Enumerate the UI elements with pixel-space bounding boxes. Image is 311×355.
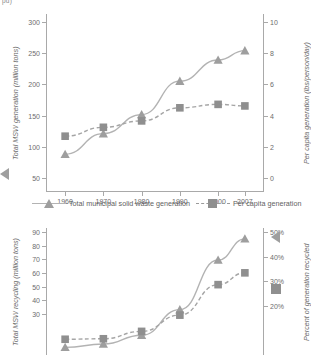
triangle-marker-icon bbox=[240, 234, 249, 242]
left-axis-tick bbox=[42, 116, 46, 117]
square-marker-icon bbox=[138, 117, 146, 125]
left-axis-tick bbox=[42, 314, 46, 315]
right-axis-tick bbox=[264, 257, 268, 258]
series-line-per-capita bbox=[65, 104, 245, 136]
right-axis-tick-label: 20% bbox=[270, 302, 284, 309]
left-axis-tick bbox=[42, 287, 46, 288]
left-axis-title: Total MSW recycling (million tons) bbox=[11, 238, 20, 346]
right-axis-tick bbox=[264, 232, 268, 233]
left-axis-tick bbox=[42, 273, 46, 274]
square-marker-icon bbox=[241, 102, 249, 110]
right-axis-tick bbox=[264, 53, 268, 54]
right-axis-tick-label: 4 bbox=[270, 112, 274, 119]
edge-triangle-marker-icon bbox=[271, 231, 280, 243]
left-axis-tick-label: 60 bbox=[32, 270, 40, 277]
square-marker-icon bbox=[241, 269, 249, 277]
left-axis-tick bbox=[42, 246, 46, 247]
legend-line-dashed bbox=[196, 199, 230, 208]
right-axis-tick bbox=[264, 178, 268, 179]
left-axis-tick-label: 90 bbox=[32, 229, 40, 236]
left-axis-tick bbox=[42, 178, 46, 179]
edge-square-marker-icon bbox=[271, 284, 281, 294]
left-axis-tick-label: 50 bbox=[32, 283, 40, 290]
left-axis-tick-label: 150 bbox=[28, 112, 40, 119]
left-axis-tick-label: 80 bbox=[32, 242, 40, 249]
right-axis-tick bbox=[264, 84, 268, 85]
right-axis-title: Percent of generation recycled bbox=[302, 243, 311, 341]
right-axis-tick bbox=[264, 281, 268, 282]
square-marker-icon bbox=[61, 132, 69, 140]
series-layer bbox=[46, 228, 264, 355]
right-axis-tick-label: 10 bbox=[270, 19, 278, 26]
msw-recycling-chart: Total MSW recycling (million tons) Perce… bbox=[0, 228, 311, 355]
series-layer bbox=[46, 14, 264, 192]
left-axis-tick bbox=[42, 300, 46, 301]
legend-label: Total municipal solid waste generation bbox=[69, 199, 190, 208]
left-axis-tick-label: 40 bbox=[32, 297, 40, 304]
right-axis-tick-label: 40% bbox=[270, 253, 284, 260]
legend-label: Per capita generation bbox=[233, 199, 301, 208]
right-axis-tick bbox=[264, 116, 268, 117]
left-axis-tick bbox=[42, 259, 46, 260]
chart-page: pd) Total MSW generation (million tons) … bbox=[0, 0, 311, 355]
right-axis-tick-label: 2 bbox=[270, 143, 274, 150]
square-marker-icon bbox=[176, 104, 184, 112]
legend-line-solid bbox=[32, 199, 66, 208]
legend-item-per-capita: Per capita generation bbox=[196, 199, 301, 208]
left-axis-tick-label: 100 bbox=[28, 143, 40, 150]
edge-triangle-marker-icon bbox=[0, 168, 9, 180]
square-marker-icon bbox=[61, 335, 69, 343]
plot-area: 3040506070809020%30%40%50% bbox=[46, 228, 264, 355]
left-axis-tick-label: 200 bbox=[28, 81, 40, 88]
square-marker-icon bbox=[214, 281, 222, 289]
right-axis-tick bbox=[264, 306, 268, 307]
left-axis-tick bbox=[42, 84, 46, 85]
square-marker-icon bbox=[100, 335, 108, 343]
square-marker-icon bbox=[100, 124, 108, 132]
right-axis-tick-label: 6 bbox=[270, 81, 274, 88]
right-axis-tick-label: 0 bbox=[270, 175, 274, 182]
left-axis-tick-label: 50 bbox=[32, 175, 40, 182]
left-axis-tick-label: 70 bbox=[32, 256, 40, 263]
left-axis-tick bbox=[42, 232, 46, 233]
right-axis-tick bbox=[264, 22, 268, 23]
right-axis-title: Per capita generation (lbs/person/day) bbox=[302, 42, 311, 164]
square-marker-icon bbox=[208, 199, 217, 208]
series-line-total bbox=[65, 239, 245, 348]
left-axis-tick-label: 300 bbox=[28, 19, 40, 26]
legend: Total municipal solid waste generation P… bbox=[32, 196, 292, 210]
square-marker-icon bbox=[176, 311, 184, 319]
left-axis-tick-label: 250 bbox=[28, 50, 40, 57]
msw-generation-chart: Total MSW generation (million tons) Per … bbox=[0, 14, 311, 192]
triangle-marker-icon bbox=[44, 199, 54, 208]
plot-area: 5010015020025030002468101960197019801990… bbox=[46, 14, 264, 192]
left-axis-title: Total MSW generation (million tons) bbox=[11, 46, 20, 160]
legend-item-total-generation: Total municipal solid waste generation bbox=[32, 199, 190, 208]
clipped-header-text: pd) bbox=[2, 0, 12, 4]
square-marker-icon bbox=[214, 101, 222, 109]
right-axis-tick-label: 8 bbox=[270, 50, 274, 57]
left-axis-tick-label: 30 bbox=[32, 311, 40, 318]
square-marker-icon bbox=[138, 328, 146, 336]
right-axis-tick bbox=[264, 147, 268, 148]
left-axis-tick bbox=[42, 53, 46, 54]
left-axis-tick bbox=[42, 22, 46, 23]
left-axis-tick bbox=[42, 147, 46, 148]
